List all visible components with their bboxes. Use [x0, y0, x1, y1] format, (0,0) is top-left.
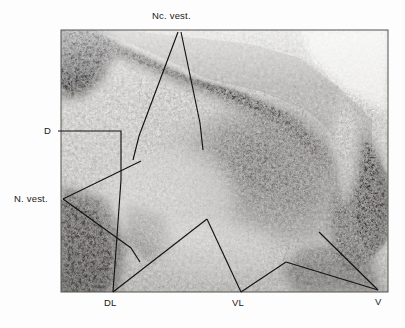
- label-nc-vest: Nc. vest.: [152, 11, 191, 21]
- label-d: D: [44, 126, 51, 136]
- micrograph-image: [61, 30, 388, 292]
- label-n-vest: N. vest.: [14, 194, 48, 204]
- label-v: V: [375, 297, 382, 307]
- figure-root: Nc. vest. D N. vest. DL VL V: [0, 0, 405, 328]
- label-vl: VL: [232, 298, 244, 308]
- label-dl: DL: [104, 298, 117, 308]
- micrograph-plate: [0, 0, 405, 328]
